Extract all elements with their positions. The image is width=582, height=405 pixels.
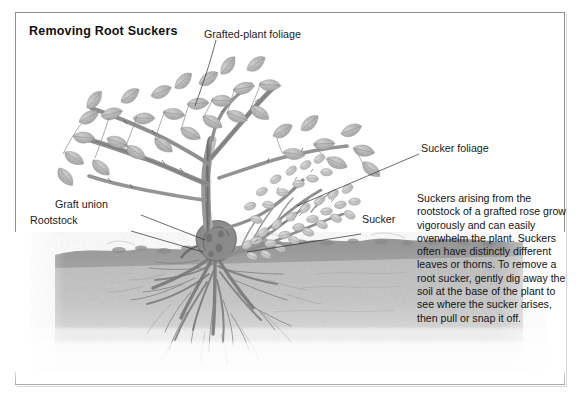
label-graft-union: Graft union [55,199,108,211]
caption-text-block: Suckers arising from the rootstock of a … [417,192,567,325]
figure-root: Removing Root Suckers [0,0,582,405]
caption-paragraph: Suckers arising from the rootstock of a … [417,192,567,325]
label-grafted-plant-foliage: Grafted-plant foliage [204,29,301,41]
label-rootstock: Rootstock [30,215,78,227]
grafted-plant-foliage [55,53,383,189]
label-sucker-foliage: Sucker foliage [421,143,489,155]
label-sucker: Sucker [362,214,395,226]
